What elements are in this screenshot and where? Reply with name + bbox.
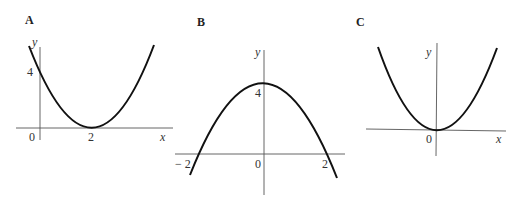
tick-y-4-a: 4 xyxy=(27,65,33,79)
y-label-a: y xyxy=(31,35,38,49)
panel-label-b: B xyxy=(197,15,205,29)
figure: A y 4 0 2 x B y 4 0 − 2 2 C y 0 x xyxy=(0,0,515,202)
y-label-b: y xyxy=(254,45,261,59)
parabola-c xyxy=(378,47,497,130)
y-axis-c xyxy=(436,43,437,156)
tick-x-2-a: 2 xyxy=(88,130,94,144)
panel-label-a: A xyxy=(25,13,34,27)
origin-b: 0 xyxy=(255,157,261,171)
panel-label-c: C xyxy=(356,15,365,29)
origin-c: 0 xyxy=(426,132,432,146)
tick-x-2-b: 2 xyxy=(322,157,328,171)
y-label-c: y xyxy=(425,45,432,59)
origin-a: 0 xyxy=(29,130,35,144)
graph-c: C y 0 x xyxy=(356,15,506,156)
graph-a: A y 4 0 2 x xyxy=(16,13,173,144)
x-label-c: x xyxy=(495,132,502,146)
x-label-a: x xyxy=(159,130,166,144)
tick-y-4-b: 4 xyxy=(255,86,261,100)
tick-x-neg2-b: − 2 xyxy=(175,157,191,171)
parabola-a xyxy=(29,45,154,128)
graph-b: B y 4 0 − 2 2 xyxy=(175,15,345,195)
parabola-b xyxy=(190,83,337,178)
